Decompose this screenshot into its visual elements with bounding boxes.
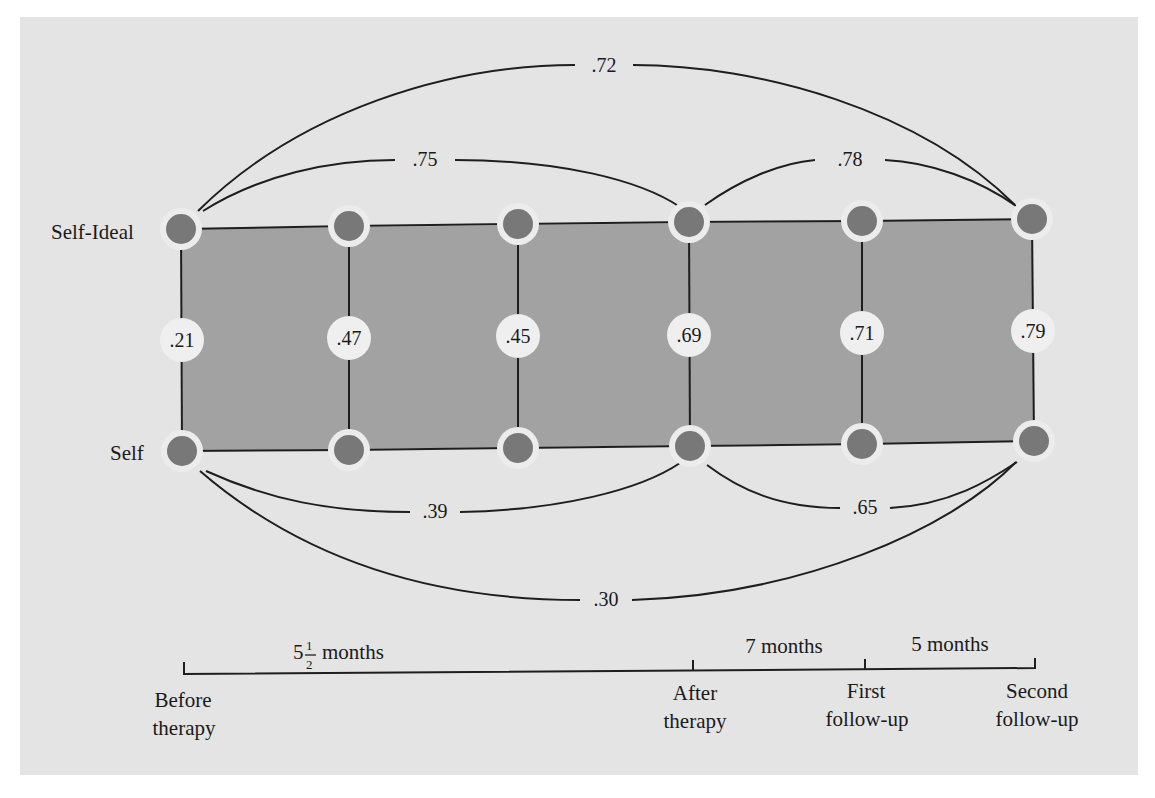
correlation-before: .21 [170, 329, 195, 351]
value-badge: .71 [840, 311, 884, 355]
correlation-after: .69 [677, 324, 702, 346]
correlation-point-2: .47 [337, 327, 362, 349]
node-icon [1017, 204, 1047, 234]
interval-whole: 5 [293, 640, 304, 664]
row-label-self-ideal: Self-Ideal [51, 220, 134, 244]
node-icon [1019, 426, 1049, 456]
value-badge: .21 [160, 318, 204, 362]
timepoint-after-line1: After [673, 681, 717, 705]
node-icon [334, 435, 364, 465]
correlation-second-followup: .79 [1021, 320, 1046, 342]
value-badge: .45 [496, 314, 540, 358]
arc-value-before-after: .75 [413, 148, 438, 170]
node-icon [334, 211, 364, 241]
arc-value-self-after-second: .65 [853, 496, 878, 518]
row-label-self: Self [110, 441, 144, 465]
node-icon [167, 436, 197, 466]
correlation-first-followup: .71 [850, 322, 875, 344]
interval-fraction-num: 1 [306, 638, 313, 653]
node-icon [166, 214, 196, 244]
value-badge: .69 [667, 313, 711, 357]
value-badge: .47 [327, 316, 371, 360]
node-icon [847, 429, 877, 459]
arc-value-before-second: .72 [592, 54, 617, 76]
timepoint-after-line2: therapy [664, 709, 727, 733]
arc-value-after-second: .78 [838, 148, 863, 170]
node-icon [674, 207, 704, 237]
timepoint-second-line2: follow-up [996, 707, 1079, 731]
correlation-point-3: .45 [506, 325, 531, 347]
node-icon [675, 431, 705, 461]
correlation-diagram: .72 .75 .78 .39 .65 .30 .21 .47 .45 . [0, 0, 1155, 798]
timepoint-before-line1: Before [154, 688, 211, 712]
band-fill [181, 219, 1034, 451]
timepoint-first-line2: follow-up [826, 707, 909, 731]
value-badge: .79 [1011, 309, 1055, 353]
interval-fraction-den: 2 [306, 657, 313, 672]
timepoint-second-line1: Second [1006, 679, 1068, 703]
arc-value-self-before-second: .30 [594, 588, 619, 610]
timepoint-before-line2: therapy [153, 716, 216, 740]
arc-value-self-before-after: .39 [423, 500, 448, 522]
interval-label-third: 5 months [911, 632, 989, 656]
node-icon [503, 433, 533, 463]
timepoint-first-line1: First [847, 679, 886, 703]
interval-label-second: 7 months [745, 634, 823, 658]
node-icon [847, 206, 877, 236]
node-icon [503, 209, 533, 239]
interval-unit: months [322, 640, 384, 664]
